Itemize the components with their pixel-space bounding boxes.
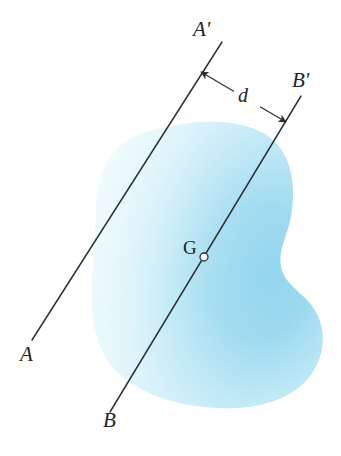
label-axis-b-prime: B' — [292, 70, 309, 91]
plane-area-highlight — [92, 122, 323, 409]
label-centroid-g: G — [183, 238, 197, 257]
label-axis-b: B — [103, 410, 116, 431]
plane-area-body — [92, 122, 323, 409]
label-axis-a: A — [20, 344, 33, 365]
centroid-marker-icon — [200, 253, 208, 261]
label-distance-d: d — [238, 85, 248, 105]
figure-canvas — [0, 0, 341, 456]
label-axis-a-prime: A' — [193, 19, 210, 40]
centroid-parallel-axis-figure: A B A' B' d G — [0, 0, 341, 456]
